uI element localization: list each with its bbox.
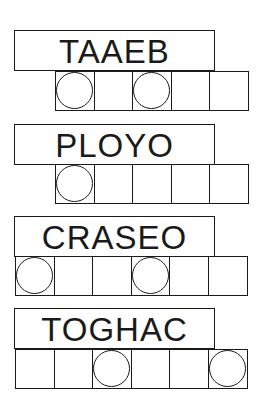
scrambled-word-4: TOGHAC bbox=[15, 312, 214, 348]
answer-cells-1 bbox=[55, 71, 249, 111]
circled-letter-marker bbox=[132, 257, 169, 294]
answer-cell[interactable] bbox=[132, 164, 172, 204]
circled-letter-marker bbox=[133, 72, 170, 109]
circled-letter-marker bbox=[16, 257, 53, 294]
answer-cell[interactable] bbox=[209, 164, 249, 204]
answer-cell[interactable] bbox=[171, 71, 211, 111]
answer-cell[interactable] bbox=[54, 256, 94, 296]
scrambled-word-2: PLOYO bbox=[15, 128, 214, 164]
answer-cell[interactable] bbox=[209, 71, 249, 111]
answer-cell[interactable] bbox=[131, 256, 171, 296]
circled-letter-marker bbox=[93, 350, 130, 387]
circled-letter-marker bbox=[56, 72, 93, 109]
scrambled-word-box-4: TOGHAC bbox=[14, 308, 215, 349]
answer-cell[interactable] bbox=[54, 349, 94, 389]
scrambled-word-1: TAAEB bbox=[15, 34, 214, 70]
answer-cells-2 bbox=[55, 164, 249, 204]
answer-cell[interactable] bbox=[55, 71, 95, 111]
answer-cells-3 bbox=[15, 256, 248, 296]
answer-cell[interactable] bbox=[132, 71, 172, 111]
answer-cell[interactable] bbox=[94, 164, 134, 204]
scrambled-word-3: CRASEO bbox=[15, 220, 214, 256]
answer-cell[interactable] bbox=[169, 256, 209, 296]
scrambled-word-box-1: TAAEB bbox=[14, 30, 215, 71]
answer-cell[interactable] bbox=[208, 349, 248, 389]
answer-cell[interactable] bbox=[94, 71, 134, 111]
answer-cell[interactable] bbox=[15, 349, 55, 389]
circled-letter-marker bbox=[209, 350, 246, 387]
answer-cell[interactable] bbox=[55, 164, 95, 204]
answer-cell[interactable] bbox=[92, 256, 132, 296]
answer-cell[interactable] bbox=[171, 164, 211, 204]
answer-cell[interactable] bbox=[92, 349, 132, 389]
scrambled-word-box-3: CRASEO bbox=[14, 216, 215, 257]
word-jumble-puzzle: TAAEB PLOYO CRASEO TOGHAC bbox=[0, 0, 278, 407]
answer-cells-4 bbox=[15, 349, 248, 389]
answer-cell[interactable] bbox=[131, 349, 171, 389]
answer-cell[interactable] bbox=[208, 256, 248, 296]
scrambled-word-box-2: PLOYO bbox=[14, 124, 215, 165]
circled-letter-marker bbox=[56, 165, 93, 202]
answer-cell[interactable] bbox=[15, 256, 55, 296]
answer-cell[interactable] bbox=[169, 349, 209, 389]
